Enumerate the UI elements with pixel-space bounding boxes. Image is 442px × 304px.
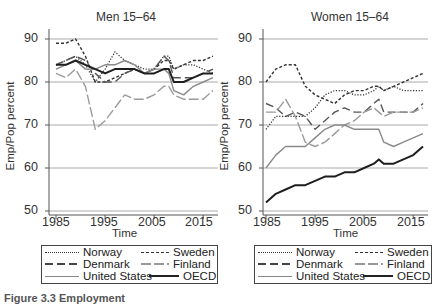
legend-swatch-norway	[258, 252, 292, 253]
legend-label-oecd: OECD	[397, 270, 430, 282]
x-tick-2015: 2015	[185, 215, 213, 229]
legend-men: Norway Sweden Denmark Finland United Sta…	[41, 245, 218, 284]
y-tick-70: 70	[24, 117, 38, 131]
legend-swatch-united-states	[45, 276, 79, 277]
legend-women: Norway Sweden Denmark Finland United Sta…	[254, 245, 432, 284]
y-tick-60: 60	[238, 160, 252, 174]
legend-swatch-finland	[355, 263, 383, 264]
legend-swatch-oecd	[149, 275, 179, 277]
x-tick-2005: 2005	[138, 215, 166, 229]
panel-title: Men 15–64	[96, 10, 156, 24]
legend-label-norway: Norway	[296, 246, 335, 258]
x-tick-2005: 2005	[349, 215, 377, 229]
series-line-oecd	[266, 147, 423, 203]
legend-swatch-norway	[45, 252, 79, 253]
series-line-finland	[266, 99, 423, 146]
x-tick-1995: 1995	[301, 215, 329, 229]
legend-label-oecd: OECD	[183, 270, 216, 282]
legend-swatch-denmark	[258, 263, 292, 264]
legend-swatch-denmark	[45, 263, 79, 264]
legend-label-denmark: Denmark	[296, 258, 343, 270]
legend-label-united-states: United States	[296, 270, 365, 282]
x-tick-1995: 1995	[90, 215, 118, 229]
y-tick-70: 70	[238, 117, 252, 131]
legend-swatch-united-states	[258, 276, 292, 277]
plot-area-men	[45, 29, 218, 219]
legend-label-sweden: Sweden	[387, 246, 429, 258]
legend-swatch-sweden	[141, 252, 169, 253]
legend-swatch-finland	[141, 263, 169, 264]
y-tick-60: 60	[24, 160, 38, 174]
y-axis-label: Emp/Pop percent	[4, 76, 16, 176]
legend-label-denmark: Denmark	[83, 258, 130, 270]
y-tick-50: 50	[238, 203, 252, 217]
legend-label-united-states: United States	[83, 270, 152, 282]
x-tick-2015: 2015	[397, 215, 425, 229]
plot-area-women	[259, 29, 428, 219]
legend-swatch-sweden	[355, 252, 383, 253]
y-tick-50: 50	[24, 203, 38, 217]
legend-label-sweden: Sweden	[173, 246, 215, 258]
y-tick-80: 80	[24, 74, 38, 88]
legend-label-norway: Norway	[83, 246, 122, 258]
series-line-sweden	[266, 65, 423, 104]
x-tick-1985: 1985	[42, 215, 70, 229]
legend-label-finland: Finland	[387, 258, 425, 270]
y-tick-90: 90	[24, 31, 38, 45]
x-tick-1985: 1985	[253, 215, 281, 229]
y-tick-80: 80	[238, 74, 252, 88]
legend-swatch-oecd	[363, 275, 393, 277]
figure-caption: Figure 3.3 Employment	[4, 292, 125, 304]
panel-title: Women 15–64	[311, 10, 389, 24]
legend-label-finland: Finland	[173, 258, 211, 270]
y-axis-label: Emp/Pop percent	[218, 76, 230, 176]
y-tick-90: 90	[238, 31, 252, 45]
